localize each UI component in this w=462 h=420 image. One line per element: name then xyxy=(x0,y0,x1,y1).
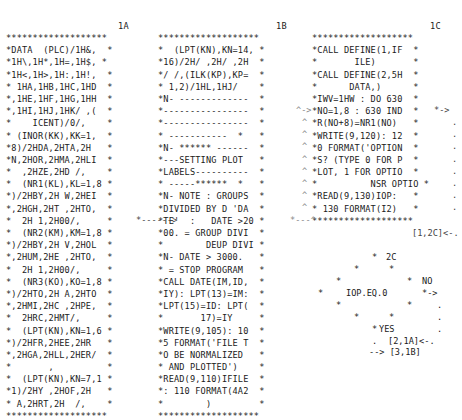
code-line: *,2HGH,2HT ,2HTO, * xyxy=(6,203,112,215)
diamond-star: * xyxy=(407,299,412,311)
diamond-star: * xyxy=(407,275,412,287)
code-line: *CALL DEFINE(2,5H * xyxy=(312,69,429,81)
continuation-dot: . xyxy=(452,189,457,201)
caret-mark: ^ xyxy=(302,201,307,213)
code-line: *N- ****** ------ * xyxy=(158,142,264,154)
continuation-dot: . xyxy=(452,165,457,177)
code-line: * 1HA,1HB,1HC,1HD * xyxy=(6,81,112,93)
code-line: * (NR1(KL),KL=1,8 * xyxy=(6,178,112,190)
diamond-star: * xyxy=(389,311,394,323)
code-line: *IY): LPT(13)=IM: * xyxy=(158,288,264,300)
connector-a-to-b: *------> xyxy=(136,214,177,226)
code-line: * ) * xyxy=(158,398,264,410)
code-line: *DATA (PLC)/1H&, * xyxy=(6,44,112,56)
code-line: *WRITE(9,120): 12 * xyxy=(312,130,429,142)
diamond-star: * xyxy=(336,275,341,287)
caret-mark: ^ xyxy=(302,153,307,165)
code-line: * AND PLOTTED') * xyxy=(158,361,264,373)
code-line: *N- NOTE : GROUPS * xyxy=(158,190,264,202)
connector-c-out: *-> xyxy=(434,104,450,116)
code-line: * = STOP PROGRAM * xyxy=(158,264,264,276)
continuation-dot: . xyxy=(452,116,457,128)
code-line: *,2HMI,2HC ,2HPE, * xyxy=(6,300,112,312)
code-line: *LABELS---------- * xyxy=(158,166,264,178)
code-line: *,1HI,1HJ,1HK/ ,( * xyxy=(6,105,112,117)
column-label-1b: 1B xyxy=(276,21,287,31)
code-line: *S? (TYPE 0 FOR P * xyxy=(312,154,429,166)
column-label-1c: 1C xyxy=(430,21,441,31)
continuation-dot: . xyxy=(452,140,457,152)
code-line: * , * xyxy=(6,361,112,373)
ref-yes-branch: --> [3,1B] xyxy=(369,346,421,358)
continuation-dot: . xyxy=(437,323,442,335)
continuation-dot: . xyxy=(452,128,457,140)
code-line: * 2H 1,2H00/, * xyxy=(6,264,112,276)
connector-carets: ^^^^^^^^ xyxy=(302,116,307,214)
code-line: * ICENT)/0/, * xyxy=(6,117,112,129)
code-line: *,1HE,1HF,1HG,1HH * xyxy=(6,93,112,105)
code-line: *READ(9,130)IOP: * xyxy=(312,190,429,202)
code-line: *)/2HTO,2H A,2HTO * xyxy=(6,288,112,300)
code-line: * (LPT(KN),KN=14, * xyxy=(158,44,264,56)
code-line: *---------------- * xyxy=(158,105,264,117)
decision-no-arrow: *-> xyxy=(422,287,438,299)
code-line: * 2HRC,2HMT/, * xyxy=(6,312,112,324)
caret-mark: ^ xyxy=(302,140,307,152)
continuation-dot: . xyxy=(437,299,442,311)
diamond-star: * xyxy=(354,263,359,275)
code-line: *---SETTING PLOT * xyxy=(158,154,264,166)
footer-ref-1c: [1,2C]<-. xyxy=(412,227,459,239)
code-line: *N- ------------- * xyxy=(158,93,264,105)
code-line: *O BE NORMALIZED * xyxy=(158,349,264,361)
code-line: *CALL DEFINE(1,IF * xyxy=(312,44,429,56)
code-line: *00. = GROUP DIVI * xyxy=(158,227,264,239)
code-line: * DATA,) * xyxy=(312,81,429,93)
decision-condition: IOP.EQ.0 xyxy=(346,287,387,299)
code-line: *: 110 FORMAT(4A2 * xyxy=(158,385,264,397)
code-line: *)/2HBY,2H V,2HOL * xyxy=(6,239,112,251)
code-line: * 2H 1,2H00/, * xyxy=(6,215,112,227)
caret-mark: ^ xyxy=(302,128,307,140)
decision-yes-label: YES xyxy=(379,323,395,335)
caret-mark: ^ xyxy=(302,189,307,201)
code-line: *)/2HBY,2H W,2HEI * xyxy=(6,190,112,202)
code-line: ******************* xyxy=(312,32,429,44)
code-line: * ,2HZE,2HD /, * xyxy=(6,166,112,178)
decision-label: 2C xyxy=(386,251,396,263)
code-line: *,2HUM,2HE ,2HTO, * xyxy=(6,251,112,263)
code-line: * (LPT(KN),KN=1,6 * xyxy=(6,325,112,337)
code-line: *R(NO+8)=NR1(NO) * xyxy=(312,117,429,129)
code-line: * (INOR(KK),KK=1, * xyxy=(6,130,112,142)
diamond-star: * xyxy=(336,299,341,311)
code-line: * (LPT(KN),KN=7,1 * xyxy=(6,373,112,385)
code-line: ******************* xyxy=(6,32,112,44)
code-line: *LOT, 1 FOR OPTIO * xyxy=(312,166,429,178)
code-line: *0 FORMAT('OPTION * xyxy=(312,142,429,154)
code-line: *16)/2H/ ,2H/ ,2H * xyxy=(158,56,264,68)
code-line: *---------------- * xyxy=(158,117,264,129)
code-line: * 1,2)/1HL,1HJ/ * xyxy=(158,81,264,93)
code-line: *NO=1,8 : 630 IND * xyxy=(312,105,429,117)
diamond-star: * xyxy=(354,311,359,323)
code-line: *CALL DATE(IM,ID, * xyxy=(158,276,264,288)
connector-b-to-c: ^-> xyxy=(296,104,312,116)
code-line: *READ(9,110)IFILE * xyxy=(158,373,264,385)
code-line: * DEUP DIVI * xyxy=(158,239,264,251)
code-line: * 130 FORMAT(I2) * xyxy=(312,203,429,215)
column-1a-code: ********************DATA (PLC)/1H&, **1H… xyxy=(6,32,112,420)
code-line: * (NR3(KO),KO=1,8 * xyxy=(6,276,112,288)
code-line: *)/2HFR,2HEE,2HR * xyxy=(6,337,112,349)
code-line: *5 FORMAT('FILE T * xyxy=(158,337,264,349)
code-line: *IWV=1HW : DO 630 * xyxy=(312,93,429,105)
code-line: *LPT(15)=ID: LPT( * xyxy=(158,300,264,312)
caret-mark: ^ xyxy=(302,177,307,189)
code-line: *8)/2HDA,2HTA,2H * xyxy=(6,142,112,154)
diamond-top-star: * xyxy=(372,251,377,263)
code-line: * 17)=IY * xyxy=(158,312,264,324)
column-label-1a: 1A xyxy=(118,21,129,31)
code-line: ******************* xyxy=(158,410,264,420)
code-line: ******************* xyxy=(6,410,112,420)
code-line: *1H<,1H>,1H:,1H!, * xyxy=(6,69,112,81)
code-line: *WRITE(9,105): 10 * xyxy=(158,325,264,337)
